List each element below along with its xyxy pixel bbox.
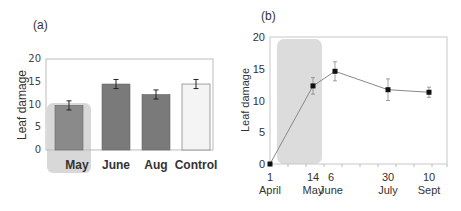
svg-text:20: 20 — [253, 31, 265, 43]
x-label-aug: Aug — [144, 158, 167, 172]
x-axis-b: 1April14May6June30July10Sept — [259, 171, 440, 196]
chart-b: 0 5 10 15 20 Leaf damage 1April14May6Jun… — [239, 31, 447, 196]
svg-text:15: 15 — [28, 76, 41, 87]
svg-text:0: 0 — [259, 158, 265, 170]
x-label-day: 10 — [423, 171, 435, 183]
svg-text:15: 15 — [253, 63, 265, 75]
bar-aug — [142, 94, 170, 150]
svg-text:10: 10 — [28, 99, 41, 110]
svg-text:10: 10 — [253, 95, 265, 107]
data-point — [427, 90, 432, 95]
svg-text:5: 5 — [259, 126, 265, 138]
data-point — [268, 162, 273, 167]
shaded-region — [277, 39, 322, 164]
y-axis-label-a: Leaf damage — [15, 70, 29, 140]
data-point — [333, 69, 338, 74]
y-axis-label-b: Leaf damage — [239, 68, 251, 132]
x-label-month: April — [259, 184, 281, 196]
chart-a: 0 5 10 15 20 Leaf damage MayJuneAugContr… — [15, 53, 217, 173]
x-label-day: 6 — [328, 171, 334, 183]
bar-may — [55, 105, 83, 150]
data-point — [386, 87, 391, 92]
x-axis-a: MayJuneAugControl — [65, 158, 217, 172]
x-label-day: 1 — [267, 171, 273, 183]
svg-text:0: 0 — [35, 144, 41, 155]
x-label-control: Control — [175, 158, 218, 172]
bar-control — [182, 84, 210, 150]
x-label-month: June — [319, 184, 343, 196]
y-axis-b: 0 5 10 15 20 — [253, 31, 265, 170]
figure: (a) 0 5 10 15 20 Leaf damage MayJuneAugC… — [0, 0, 461, 211]
x-label-may: May — [65, 158, 89, 172]
bar-june — [102, 84, 130, 150]
svg-text:20: 20 — [28, 53, 41, 64]
data-point — [311, 83, 316, 88]
panel-b-label: (b) — [261, 9, 276, 23]
panel-a-label: (a) — [33, 18, 48, 32]
x-label-day: 14 — [307, 171, 319, 183]
x-label-june: June — [102, 158, 130, 172]
svg-text:5: 5 — [35, 121, 41, 132]
x-label-month: Sept — [418, 184, 441, 196]
bars-a — [55, 79, 210, 150]
y-axis-a: 0 5 10 15 20 — [28, 53, 41, 155]
x-label-day: 30 — [382, 171, 394, 183]
x-label-month: July — [378, 184, 398, 196]
